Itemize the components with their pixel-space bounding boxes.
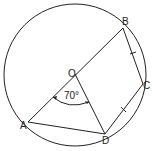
segment-od — [75, 74, 105, 134]
segment-bc — [123, 28, 143, 84]
diagram-canvas: O 70° A B C D — [0, 0, 153, 151]
tick-mark-bc — [130, 52, 136, 54]
geometry-diagram: O 70° A B C D — [0, 0, 153, 151]
segment-ad — [28, 122, 105, 134]
label-a: A — [20, 120, 27, 131]
label-c: C — [143, 80, 150, 91]
label-o: O — [68, 68, 76, 79]
label-b: B — [122, 16, 129, 27]
label-angle: 70° — [64, 90, 79, 101]
label-d: D — [102, 135, 109, 146]
